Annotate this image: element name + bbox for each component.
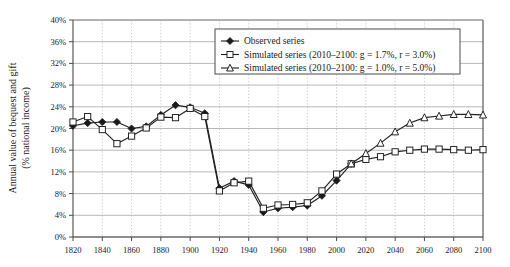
x-tick-label: 2020 (357, 245, 374, 255)
x-tick-label: 1960 (270, 245, 287, 255)
marker-open-square (275, 202, 281, 208)
marker-open-square (421, 146, 427, 152)
marker-open-square (85, 113, 91, 119)
x-tick-label: 1920 (211, 245, 228, 255)
marker-open-square (70, 119, 76, 125)
marker-open-square (114, 141, 120, 147)
y-tick-label: 24% (50, 102, 66, 112)
marker-open-square (260, 205, 266, 211)
marker-open-square (128, 133, 134, 139)
y-tick-label: 0% (55, 232, 66, 242)
marker-open-square (158, 114, 164, 120)
x-tick-label: 1980 (299, 245, 316, 255)
marker-open-square (202, 113, 208, 119)
marker-open-square (465, 147, 471, 153)
bequest-gift-line-chart: 0%4%8%12%16%20%24%28%32%36%40% 182018401… (0, 0, 510, 267)
y-tick-label: 12% (50, 167, 66, 177)
x-tick-label: 1940 (240, 245, 257, 255)
x-tick-label: 2080 (445, 245, 462, 255)
legend-item-2[interactable]: Simulated series (2010–2100: g = 1.7%, r… (221, 50, 435, 61)
y-tick-label: 4% (55, 210, 66, 220)
x-tick-label: 1880 (152, 245, 169, 255)
marker-open-square (99, 126, 105, 132)
x-tick-label: 1820 (65, 245, 82, 255)
y-tick-label: 8% (55, 189, 66, 199)
legend-label: Simulated series (2010–2100: g = 1.7%, r… (244, 50, 435, 61)
marker-open-square (363, 156, 369, 162)
y-tick-label: 40% (50, 15, 66, 25)
y-tick-label: 16% (50, 145, 66, 155)
marker-open-square (231, 180, 237, 186)
legend-label: Simulated series (2010–2100: g = 1.0%, r… (244, 63, 435, 74)
marker-open-square (143, 125, 149, 131)
y-tick-label: 36% (50, 37, 66, 47)
marker-open-square (304, 200, 310, 206)
marker-open-square (319, 188, 325, 194)
marker-open-square (480, 147, 486, 153)
marker-open-square (377, 154, 383, 160)
marker-open-square (436, 146, 442, 152)
marker-open-square (227, 52, 233, 58)
y-axis-title-line-2: (% national income) (20, 87, 32, 169)
marker-open-square (216, 188, 222, 194)
x-tick-label: 2000 (328, 245, 345, 255)
marker-open-square (333, 171, 339, 177)
x-tick-label: 1900 (182, 245, 199, 255)
chart-legend: Observed seriesSimulated series (2010–21… (215, 29, 460, 74)
marker-open-square (407, 147, 413, 153)
x-tick-label: 2040 (387, 245, 404, 255)
chart-container: 0%4%8%12%16%20%24%28%32%36%40% 182018401… (0, 0, 510, 267)
y-tick-label: 32% (50, 58, 66, 68)
legend-label: Observed series (244, 36, 305, 46)
x-tick-label: 2060 (416, 245, 433, 255)
y-tick-label: 28% (50, 80, 66, 90)
marker-open-square (451, 147, 457, 153)
marker-open-square (290, 201, 296, 207)
y-tick-label: 20% (50, 124, 66, 134)
x-tick-label: 1840 (94, 245, 111, 255)
marker-open-square (172, 115, 178, 121)
marker-open-square (246, 178, 252, 184)
legend-item-3[interactable]: Simulated series (2010–2100: g = 1.0%, r… (221, 63, 435, 74)
y-axis-title-line-1: Annual value of bequest and gift (7, 62, 18, 193)
x-tick-label: 2100 (475, 245, 492, 255)
marker-open-square (392, 149, 398, 155)
x-tick-label: 1860 (123, 245, 140, 255)
marker-open-square (187, 105, 193, 111)
